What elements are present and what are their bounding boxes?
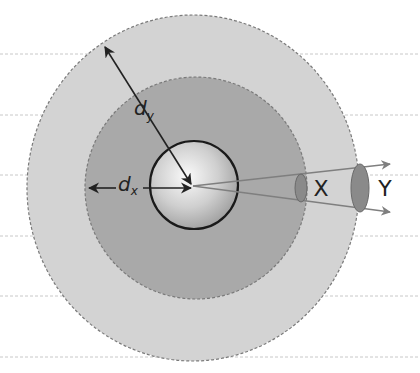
- far-area-ellipse: [351, 164, 369, 212]
- central-sphere: [150, 141, 238, 229]
- far-area-label: Y: [377, 176, 392, 201]
- dx-label-sub: x: [130, 184, 139, 198]
- near-area-ellipse: [295, 174, 307, 202]
- dx-label-main: d: [118, 172, 131, 196]
- near-area-label: X: [313, 176, 328, 201]
- dy-label-main: d: [134, 96, 147, 120]
- dy-label-sub: y: [146, 109, 155, 123]
- inverse-square-diagram: X Y dy dx: [0, 0, 420, 373]
